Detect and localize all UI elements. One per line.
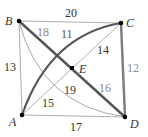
vertex-c <box>119 21 124 26</box>
vertex-label-d: D <box>129 117 139 131</box>
weight-b-e: 18 <box>37 25 49 39</box>
weight-e-d: 16 <box>99 81 111 95</box>
vertex-label-c: C <box>126 16 135 30</box>
weight-b-d-curved: 19 <box>64 83 76 97</box>
edge-a-d <box>22 115 125 117</box>
edge-b-a <box>19 21 22 115</box>
vertex-d <box>123 115 128 120</box>
weight-a-c-curved: 11 <box>61 27 73 41</box>
weight-e-c: 14 <box>97 43 109 57</box>
edge-c-d <box>121 23 125 117</box>
vertex-e <box>70 66 74 70</box>
vertex-label-e: E <box>78 62 87 76</box>
weight-a-e: 15 <box>42 96 54 110</box>
weighted-graph: B C A D E 20 13 17 12 18 16 15 14 11 19 <box>0 0 148 137</box>
weight-c-d: 12 <box>127 61 139 75</box>
weight-b-c: 20 <box>65 6 77 20</box>
vertex-label-b: B <box>5 14 13 28</box>
vertex-label-a: A <box>8 115 17 129</box>
vertex-b <box>17 19 22 24</box>
edge-b-c <box>19 21 121 23</box>
vertex-a <box>20 113 25 118</box>
weight-a-d: 17 <box>70 120 82 134</box>
weight-b-a: 13 <box>4 60 16 74</box>
